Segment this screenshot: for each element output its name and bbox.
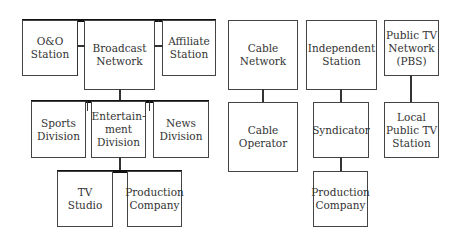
pbs-connector [410, 75, 412, 103]
oo-side-line [77, 20, 78, 76]
news-division-box: News Division [153, 101, 209, 158]
tv-studio-box: TV Studio [57, 171, 113, 227]
cable-operator-box: Cable Operator [228, 102, 298, 172]
pbs-network-box: Public TV Network (PBS) [384, 20, 439, 76]
affiliate-station-box: Affiliate Station [162, 20, 216, 76]
independent-connector [340, 89, 342, 103]
independent-station-box: Independent Station [306, 20, 377, 90]
syndicator-box: Syndicator [313, 102, 369, 158]
sports-division-box: Sports Division [31, 101, 86, 158]
entertainment-division-box: Entertain- ment Division [91, 101, 146, 158]
broadcast-network-box: Broadcast Network [84, 20, 155, 90]
independent-production-box: Production Company [313, 171, 368, 227]
local-public-tv-box: Local Public TV Station [384, 102, 439, 158]
divider-sports-ent [87, 101, 88, 111]
affiliate-side-line [158, 20, 159, 22]
oo-station-box: O&O Station [22, 20, 78, 76]
oo-connector [77, 45, 85, 47]
production-company-box: Production Company [127, 171, 182, 227]
affiliate-connector [154, 45, 163, 47]
syndicator-connector [340, 157, 342, 172]
cable-connector [262, 89, 264, 103]
divider-ent-news [149, 101, 150, 111]
cable-network-box: Cable Network [228, 20, 298, 90]
